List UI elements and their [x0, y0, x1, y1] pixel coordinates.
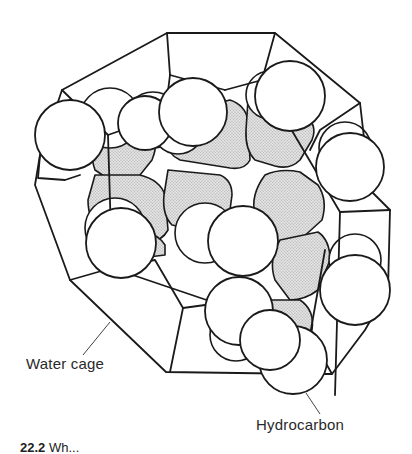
hydrocarbon-label: Hydrocarbon	[256, 416, 344, 433]
water-cage-label: Water cage	[26, 355, 104, 372]
clathrate-diagram	[0, 0, 412, 454]
figure-number: 22.2	[20, 440, 45, 454]
figure-caption-text: Wh...	[49, 440, 79, 454]
figure-caption: 22.2 Wh...	[20, 440, 79, 454]
